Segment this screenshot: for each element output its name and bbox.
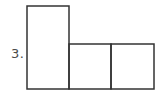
square-middle	[69, 44, 111, 89]
composite-rectangle-figure	[0, 0, 160, 109]
tall-rectangle	[27, 6, 69, 89]
square-right	[111, 44, 154, 89]
